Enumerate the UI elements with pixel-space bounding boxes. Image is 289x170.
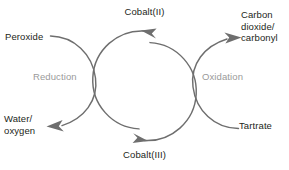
cycle-arc-right-up — [145, 43, 197, 141]
input-label-peroxide: Peroxide — [5, 31, 43, 43]
input-label-tartrate: Tartrate — [239, 120, 272, 132]
half-reaction-label-reduction: Reduction — [33, 71, 77, 83]
output-label-water-oxygen-line2: oxygen — [4, 125, 35, 136]
redox-cycle-diagram: Cobalt(II) Cobalt(III) Peroxide Water/ox… — [0, 0, 289, 170]
output-label-carbon-dioxide-line3: carbonyl — [241, 32, 278, 43]
water-oxygen-arrowhead — [47, 120, 64, 131]
carbon-dioxide-arrowhead — [224, 32, 241, 43]
output-label-water-oxygen: Water/oxygen — [4, 113, 35, 136]
output-label-water-oxygen-line1: Water/ — [4, 113, 32, 124]
half-reaction-label-oxidation: Oxidation — [202, 71, 243, 83]
output-label-carbon-dioxide-line1: Carbon — [241, 9, 273, 20]
cycle-bottom-arrowhead — [133, 133, 149, 143]
cycle-arc-left-down — [93, 31, 145, 129]
oxidation-arc — [193, 39, 239, 129]
cycle-top-arrowhead — [141, 28, 157, 38]
node-label-cobalt-3: Cobalt(III) — [0, 149, 289, 161]
output-label-carbon-dioxide-carbonyl: Carbondioxide/carbonyl — [241, 9, 278, 44]
output-label-carbon-dioxide-line2: dioxide/ — [241, 21, 275, 32]
